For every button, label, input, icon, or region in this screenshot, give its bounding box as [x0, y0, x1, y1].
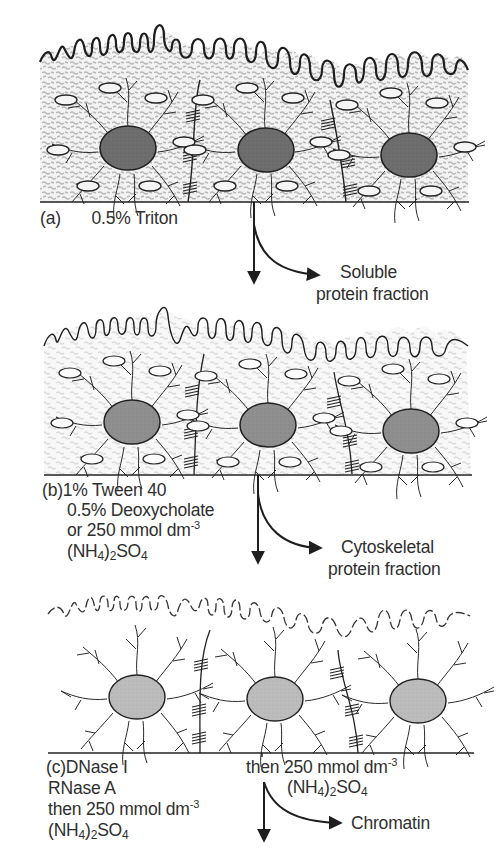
panel-b-fraction-line2: protein fraction — [328, 559, 441, 579]
panel-c-side-treatment-2: (NH4)2SO4 — [287, 777, 368, 797]
panel-c-treatment-3: then 250 mmol dm-3 — [48, 799, 199, 819]
panel-b-fraction-line1: Cytoskeletal — [341, 537, 434, 557]
panel-c-label: (c)DNase I — [46, 757, 128, 777]
panel-a-arrow — [254, 202, 318, 282]
panel-a-fraction-line1: Soluble — [340, 262, 397, 282]
panel-a-illustration — [40, 25, 485, 223]
panel-a-fraction-line2: protein fraction — [316, 284, 429, 304]
panel-c-letter: (c) — [46, 757, 66, 777]
panel-c-nuclei — [109, 675, 446, 723]
panel-c-membrane-remnants — [48, 596, 470, 637]
panel-c-illustration — [48, 596, 494, 769]
panel-c-treatment-4: (NH4)2SO4 — [48, 820, 129, 840]
panel-b-illustration — [44, 307, 487, 499]
panel-b-treatment-3: or 250 mmol dm-3 — [67, 520, 200, 540]
panel-c-treatment-2: RNase A — [48, 778, 116, 798]
diagram-canvas — [0, 0, 498, 867]
panel-a-label: (a) 0.5% Triton — [40, 208, 178, 228]
panel-c-treatment-1: DNase I — [66, 757, 128, 777]
panel-a-letter: (a) — [40, 208, 61, 228]
panel-b-arrow — [258, 475, 320, 562]
panel-c-fraction: Chromatin — [351, 813, 430, 833]
panel-b-treatment-4: (NH4)2SO4 — [67, 541, 148, 561]
panel-c-side-treatment-1: then 250 mmol dm-3 — [246, 757, 397, 777]
panel-b-treatment-1: 1% Tween 40 — [63, 480, 167, 500]
panel-b-label: (b)1% Tween 40 — [42, 480, 166, 500]
panel-b-letter: (b) — [42, 480, 63, 500]
panel-a-treatment: 0.5% Triton — [91, 208, 177, 228]
panel-b-treatment-2: 0.5% Deoxycholate — [67, 500, 214, 520]
